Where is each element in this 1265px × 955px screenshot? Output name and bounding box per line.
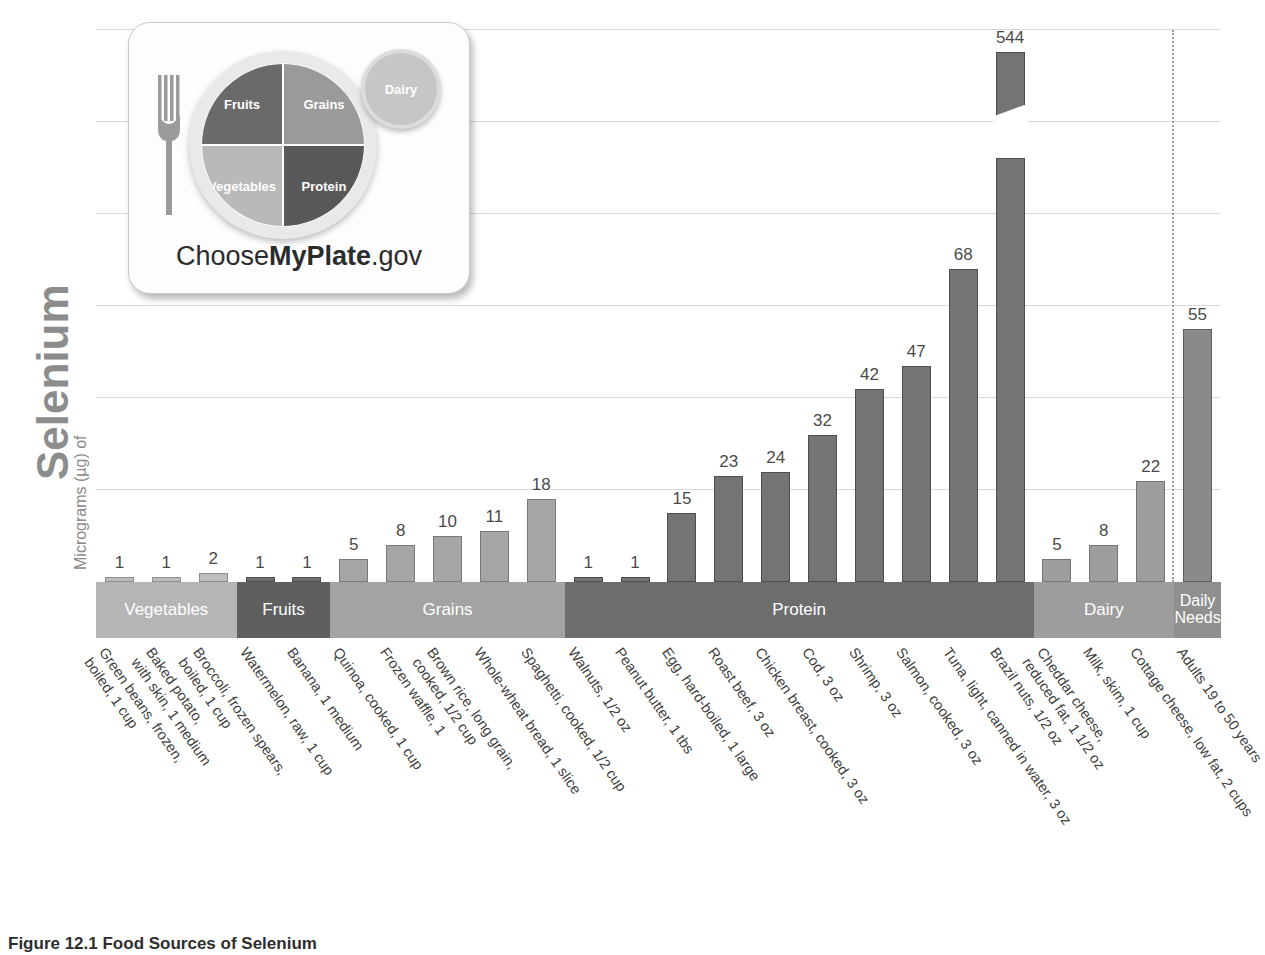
wordmark-gov: .gov: [371, 241, 422, 271]
bar-value-label: 1: [115, 553, 124, 573]
bar-body: [714, 476, 743, 582]
bar: 24: [761, 472, 790, 582]
bar-value-label: 10: [438, 512, 457, 532]
y-axis-title-group: Selenium Micrograms (µg) of: [0, 150, 90, 570]
wordmark-myplate: MyPlate: [269, 241, 371, 271]
bar-value-label: 42: [860, 365, 879, 385]
bar: 68: [949, 269, 978, 582]
bar-body: [1042, 559, 1071, 582]
plate-section-dairy: Dairy: [361, 49, 441, 129]
bar-value-label: 8: [396, 521, 405, 541]
bar-body: [667, 513, 696, 582]
x-tick-label: Adults 19 to 50 years: [1173, 644, 1265, 766]
bar: 2: [199, 573, 228, 582]
bar: 10: [433, 536, 462, 582]
plate-section-grains: Grains: [283, 63, 365, 145]
bar: 15: [667, 513, 696, 582]
bar-value-label: 47: [907, 342, 926, 362]
bar-value-label: 24: [766, 448, 785, 468]
plate-section-fruits: Fruits: [201, 63, 283, 145]
food-group-gra: Grains: [330, 582, 564, 638]
bar: 32: [808, 435, 837, 582]
food-group-band: VegetablesFruitsGrainsProteinDairyDailyN…: [96, 582, 1221, 638]
bar-body: [433, 536, 462, 582]
bar: 23: [714, 476, 743, 582]
bar-value-label: 23: [719, 452, 738, 472]
dairy-label: Dairy: [385, 82, 418, 97]
bar-value-label: 15: [672, 489, 691, 509]
food-group-dn: DailyNeeds: [1174, 582, 1221, 638]
figure-caption: Figure 12.1 Food Sources of Selenium: [8, 934, 317, 954]
food-group-veg: Vegetables: [96, 582, 237, 638]
food-group-pro: Protein: [565, 582, 1034, 638]
bar: 544: [996, 52, 1025, 582]
bar: 8: [1089, 545, 1118, 582]
x-tick-label: Salmon, cooked, 3 oz: [892, 644, 987, 769]
bar-body: [902, 366, 931, 582]
bar-value-label: 1: [630, 553, 639, 573]
bar-value-label: 22: [1141, 457, 1160, 477]
bar-value-label: 5: [349, 535, 358, 555]
bar: 55: [1183, 329, 1212, 582]
bar-body: [527, 499, 556, 582]
bar: 8: [386, 545, 415, 582]
bar-body: [808, 435, 837, 582]
fork-icon: [157, 75, 183, 215]
food-group-fru: Fruits: [237, 582, 331, 638]
bar: 47: [902, 366, 931, 582]
x-axis-tick-labels: Green beans, frozen,boiled, 1 cupBaked p…: [96, 644, 1221, 904]
bar-value-label: 55: [1188, 305, 1207, 325]
bar-value-label: 18: [532, 475, 551, 495]
bar: 42: [855, 389, 884, 582]
bar-value-label: 1: [255, 553, 264, 573]
bar-value-label: 11: [486, 507, 504, 527]
bar: 22: [1136, 481, 1165, 582]
bar: 5: [339, 559, 368, 582]
plate-section-protein: Protein: [283, 145, 365, 227]
bar-body: [480, 531, 509, 582]
bar-value-label: 68: [954, 245, 973, 265]
myplate-logo: Fruits Grains Vegetables Protein Dairy C…: [128, 22, 470, 294]
bar-value-label: 5: [1052, 535, 1061, 555]
bar-body: [1089, 545, 1118, 582]
bar-body: [1183, 329, 1212, 582]
plate-section-vegetables: Vegetables: [201, 145, 283, 227]
y-axis-title-main: Selenium: [28, 284, 78, 480]
bar-body: [1136, 481, 1165, 582]
bar-segment-lower: [996, 158, 1025, 582]
wordmark-choose: Choose: [176, 241, 269, 271]
bar-body: [386, 545, 415, 582]
bar: 18: [527, 499, 556, 582]
bar-body: [339, 559, 368, 582]
bar-value-label: 2: [208, 549, 217, 569]
bar-value-label: 544: [996, 28, 1024, 48]
myplate-wordmark: ChooseMyPlate.gov: [129, 241, 469, 272]
bar: 11: [480, 531, 509, 582]
bar-body: [761, 472, 790, 582]
bar-value-label: 1: [583, 553, 592, 573]
bar-value-label: 1: [302, 553, 311, 573]
bar-body: [855, 389, 884, 582]
bar-value-label: 32: [813, 411, 832, 431]
bar-body: [199, 573, 228, 582]
bar-value-label: 1: [162, 553, 171, 573]
bar-body: [949, 269, 978, 582]
food-group-dai: Dairy: [1034, 582, 1175, 638]
bar-value-label: 8: [1099, 521, 1108, 541]
bar: 5: [1042, 559, 1071, 582]
plate-graphic: Fruits Grains Vegetables Protein: [189, 51, 377, 239]
y-axis-title-units: Micrograms (µg) of: [72, 435, 90, 570]
x-tick-label: Cod, 3 oz: [798, 644, 848, 705]
